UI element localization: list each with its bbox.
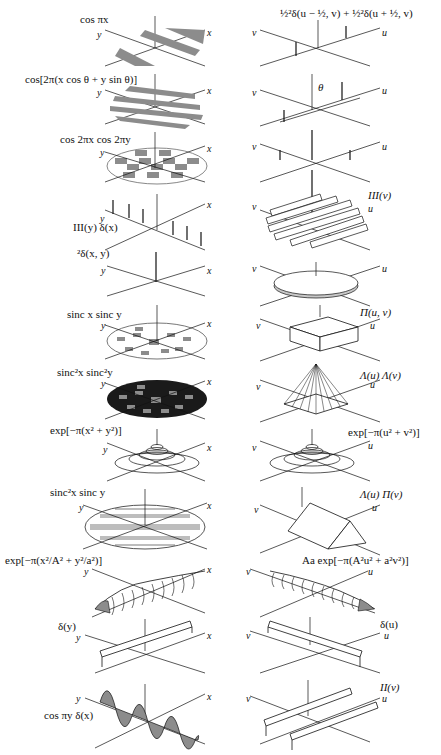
line-delta-transform-plot xyxy=(250,615,420,675)
rotated-delta-plot xyxy=(250,72,390,132)
pair-9-right: Λ(u) Π(v) v u xyxy=(250,487,420,557)
pair-1-left: cos πx y x xyxy=(95,8,215,68)
gaussian-transform-plot xyxy=(250,425,420,485)
sinc-squared-plot xyxy=(95,365,215,423)
rotated-stripes-plot xyxy=(95,72,215,132)
pair-4-left: III(y) δ(x) y x xyxy=(95,192,215,252)
pair-6-right: Π(u, v) v u xyxy=(250,305,410,365)
pair-2-right: v u θ xyxy=(250,72,390,132)
box-plot xyxy=(250,305,410,365)
pair-8-right: exp[−π(u² + v²)] v u xyxy=(250,425,420,485)
pair-10-left: exp[−π(x²/A² + y²/a²)] y x xyxy=(80,565,215,621)
pair-11-right: δ(u) v u xyxy=(250,615,420,675)
pair-5-left: ²δ(x, y) y x xyxy=(95,248,215,298)
pair-12-left: cos πy δ(x) y x xyxy=(80,680,215,752)
pair-1-right: ½²δ(u − ½, v) + ½²δ(u + ½, v) v u xyxy=(250,8,390,68)
pair-12-right: II(v) v u xyxy=(250,680,420,752)
pair-10-right: Aa exp[−π(A²u² + a²v²)] v u xyxy=(250,565,430,621)
gaussian-plot xyxy=(95,425,215,485)
pair-5-right: v u xyxy=(250,258,390,308)
comb-sheets-plot xyxy=(250,180,410,250)
elliptic-gaussian-transform-plot xyxy=(250,565,430,621)
sinc-squared-sinc-plot xyxy=(75,487,215,553)
pair-7-left: sinc²x sinc²y y x xyxy=(95,365,215,423)
disc-plot xyxy=(250,258,390,308)
pair-6-left: sinc x sinc y y x xyxy=(95,305,215,365)
stripes-plot xyxy=(95,8,215,68)
delta-plot xyxy=(95,248,215,298)
pair-9-left: sinc²x sinc y y x xyxy=(75,487,215,553)
prism-plot xyxy=(250,487,420,557)
pair-8-left: exp[−π(x² + y²)] y x xyxy=(95,425,215,485)
double-line-delta-plot xyxy=(250,680,420,752)
pair-11-left-label: δ(y) xyxy=(58,621,76,632)
checkerboard-plot xyxy=(95,130,215,190)
comb-plot xyxy=(95,192,215,252)
pair-2-left: cos[2π(x cos θ + y sin θ)] y x xyxy=(95,72,215,132)
elliptic-gaussian-plot xyxy=(80,565,215,621)
sinc-plot xyxy=(95,305,215,365)
cosine-sheet-plot xyxy=(80,680,215,752)
pyramid-plot xyxy=(250,360,410,425)
pair-11-left: δ(y) y x xyxy=(80,615,215,675)
pair-3-left: cos 2πx cos 2πy y x xyxy=(95,130,215,190)
pair-7-right: Λ(u) Λ(v) v u xyxy=(250,360,410,425)
line-delta-plot xyxy=(80,615,215,675)
pair-4-right: III(v) v u xyxy=(250,180,410,250)
delta-pair-plot xyxy=(250,8,390,68)
